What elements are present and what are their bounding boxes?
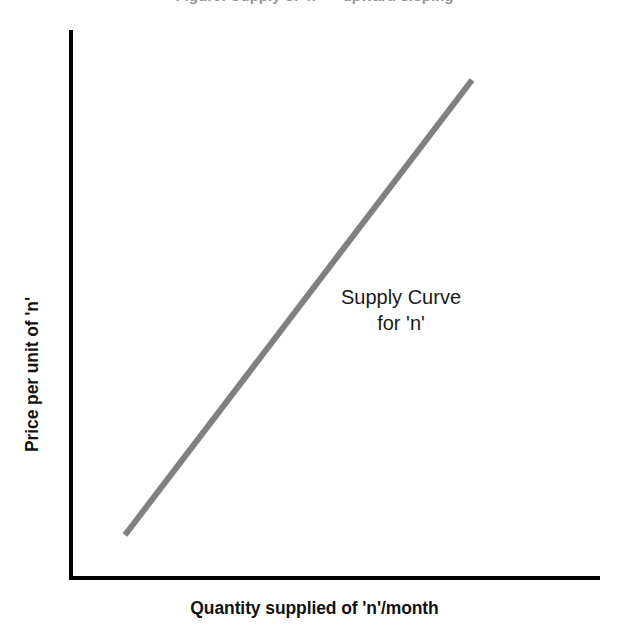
supply-curve-annotation-line2: for 'n' [331, 311, 471, 337]
y-axis-label: Price per unit of 'n' [22, 152, 43, 452]
supply-curve-annotation-line1: Supply Curve [331, 285, 471, 311]
x-axis-label: Quantity supplied of 'n'/month [0, 598, 629, 619]
supply-curve-figure: Figure: Supply of 'n' — upward sloping P… [0, 0, 629, 629]
supply-curve-annotation: Supply Curve for 'n' [331, 285, 471, 336]
supply-curve-layer [0, 0, 629, 629]
